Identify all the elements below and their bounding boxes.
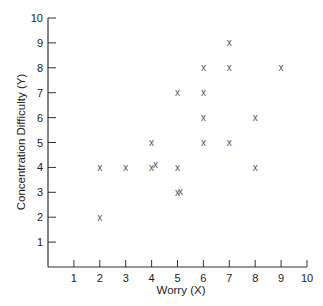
- data-point-marker: x: [201, 87, 206, 98]
- data-point-marker: x: [201, 137, 206, 148]
- y-tick-label: 10: [31, 12, 43, 24]
- data-point-marker: x: [175, 162, 180, 173]
- x-tick-label: 7: [226, 272, 232, 284]
- data-point-marker: x: [227, 62, 232, 73]
- data-point-marker: x: [123, 162, 128, 173]
- scatter-plot: 12345678910 12345678910 xxxxxxxxxxxxxxxx…: [0, 0, 323, 306]
- x-axis-ticks: 12345678910: [71, 260, 313, 284]
- y-tick-label: 9: [37, 37, 43, 49]
- data-point-marker: x: [153, 159, 158, 170]
- y-axis-ticks: 12345678910: [31, 12, 56, 248]
- x-tick-label: 3: [123, 272, 129, 284]
- data-point-marker: x: [227, 37, 232, 48]
- data-point-marker: x: [253, 162, 258, 173]
- x-tick-label: 5: [174, 272, 180, 284]
- axes: [48, 18, 307, 267]
- data-point-marker: x: [253, 112, 258, 123]
- y-tick-label: 5: [37, 137, 43, 149]
- x-tick-label: 9: [278, 272, 284, 284]
- data-point-marker: x: [201, 112, 206, 123]
- y-tick-label: 4: [37, 161, 43, 173]
- y-tick-label: 7: [37, 87, 43, 99]
- y-tick-label: 6: [37, 112, 43, 124]
- data-points: xxxxxxxxxxxxxxxxxxxx: [97, 37, 283, 222]
- data-point-marker: x: [227, 137, 232, 148]
- data-point-marker: x: [279, 62, 284, 73]
- x-tick-label: 6: [200, 272, 206, 284]
- data-point-marker: x: [175, 87, 180, 98]
- y-tick-label: 3: [37, 186, 43, 198]
- data-point-marker: x: [97, 212, 102, 223]
- data-point-marker: x: [97, 162, 102, 173]
- data-point-marker: x: [149, 137, 154, 148]
- x-tick-label: 4: [149, 272, 155, 284]
- data-point-marker: x: [201, 62, 206, 73]
- y-tick-label: 8: [37, 62, 43, 74]
- y-axis-title: Concentration Difficulty (Y): [15, 74, 27, 211]
- x-tick-label: 1: [71, 272, 77, 284]
- x-tick-label: 2: [97, 272, 103, 284]
- y-tick-label: 2: [37, 211, 43, 223]
- y-tick-label: 1: [37, 236, 43, 248]
- x-tick-label: 10: [301, 272, 313, 284]
- data-point-marker: x: [178, 186, 183, 197]
- x-tick-label: 8: [252, 272, 258, 284]
- x-axis-title: Worry (X): [157, 284, 206, 296]
